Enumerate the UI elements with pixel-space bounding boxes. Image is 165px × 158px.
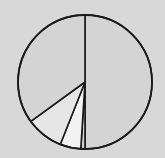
- pie-chart: [0, 0, 165, 158]
- pie-slice-1: [85, 15, 152, 149]
